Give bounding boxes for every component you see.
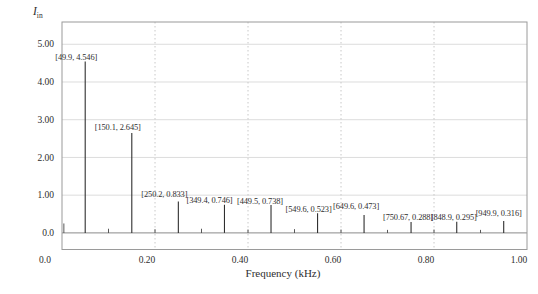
x-tick-label: 0.60 (325, 255, 342, 265)
y-tick-label: 2.00 (37, 153, 54, 163)
peak-label: [449.5, 0.738] (237, 197, 283, 206)
peak-label: [549.6, 0.523] (286, 205, 332, 214)
x-tick-label: 0.0 (39, 255, 51, 265)
x-tick-label: 0.20 (139, 255, 156, 265)
peak-label: [49.9, 4.546] (55, 53, 97, 62)
peak-label: [250.2, 0.833] (141, 190, 187, 199)
y-tick-label: 1.00 (37, 190, 54, 200)
peak-label: [848.9, 0.295] (431, 213, 477, 222)
x-tick-label: 1.00 (511, 255, 528, 265)
peak-label: [150.1, 2.645] (95, 123, 141, 132)
peak-label: [349.4, 0.746] (186, 196, 232, 205)
y-tick-label: 0.0 (42, 228, 54, 238)
y-tick-label: 3.00 (37, 115, 54, 125)
peak-label: [649.6, 0.473] (333, 202, 379, 211)
y-tick-label: 4.00 (37, 77, 54, 87)
peak-label: [750.67, 0.288] (383, 213, 433, 222)
peak-label: [949.9, 0.316] (476, 209, 522, 218)
x-tick-label: 0.80 (418, 255, 435, 265)
x-axis-title: Frequency (kHz) (246, 267, 321, 279)
spectrum-figure: Iin [49.9, 4.546][150.1, 2.645][250.2, 0… (0, 0, 538, 294)
spectrum-chart: [49.9, 4.546][150.1, 2.645][250.2, 0.833… (0, 0, 538, 294)
x-tick-label: 0.40 (232, 255, 249, 265)
y-tick-label: 5.00 (37, 39, 54, 49)
